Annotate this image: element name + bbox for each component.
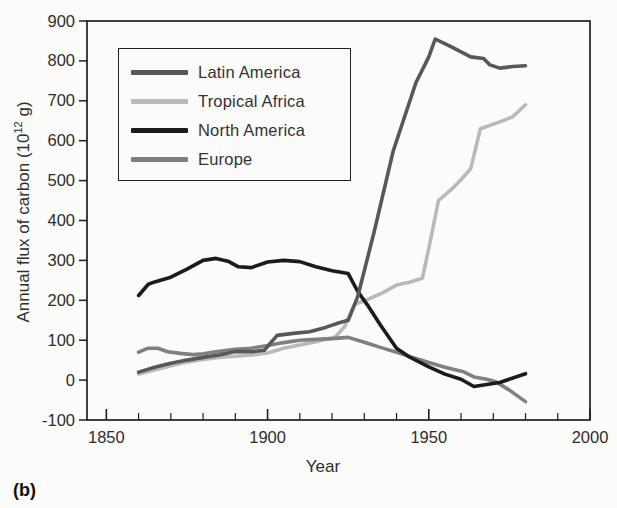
y-tick-label: -100	[42, 411, 75, 429]
y-tick-label: 900	[47, 12, 75, 30]
panel-label: (b)	[13, 480, 36, 501]
legend-box: Latin America Tropical Africa North Amer…	[118, 48, 351, 181]
legend-label-tropical-africa: Tropical Africa	[198, 92, 305, 111]
legend-item-europe: Europe	[119, 145, 350, 174]
series-line-north-america	[139, 258, 526, 386]
legend-label-north-america: North America	[198, 121, 305, 140]
y-tick-label: 500	[47, 171, 75, 189]
legend-line-swatch-latin-america	[131, 70, 188, 75]
y-axis-title: Annual flux of carbon (1012 g)	[12, 72, 38, 352]
x-tick-label: 1950	[410, 428, 447, 446]
y-tick-label: 200	[47, 291, 75, 309]
y-tick-label: 700	[47, 91, 75, 109]
y-tick-label: 600	[47, 131, 75, 149]
x-axis-title: Year	[283, 457, 363, 477]
legend-line-swatch-tropical-africa	[131, 99, 188, 104]
x-tick-label: 1850	[88, 428, 125, 446]
y-tick-label: 800	[47, 51, 75, 69]
series-line-europe	[139, 337, 526, 401]
legend-line-swatch-north-america	[131, 128, 188, 133]
legend-item-latin-america: Latin America	[119, 58, 350, 87]
legend-label-latin-america: Latin America	[198, 63, 301, 82]
x-tick-label: 1900	[249, 428, 286, 446]
y-axis-title-superscript: 12	[12, 121, 24, 133]
y-tick-label: 0	[66, 371, 75, 389]
figure-panel-b: 1850190019502000-10001002003004005006007…	[0, 0, 617, 508]
x-tick-label: 2000	[572, 428, 609, 446]
y-tick-label: 100	[47, 331, 75, 349]
legend-item-tropical-africa: Tropical Africa	[119, 87, 350, 116]
legend-item-north-america: North America	[119, 116, 350, 145]
y-tick-label: 300	[47, 251, 75, 269]
legend-line-swatch-europe	[131, 157, 188, 162]
y-tick-label: 400	[47, 211, 75, 229]
legend-label-europe: Europe	[198, 150, 252, 169]
